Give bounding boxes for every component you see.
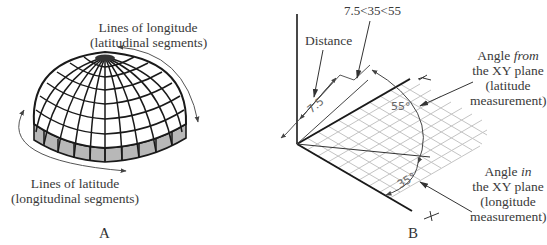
diagram-canvas xyxy=(0,0,547,245)
panel-a-letter: A xyxy=(99,225,110,242)
x-axis-glyph xyxy=(424,211,439,221)
angle-from-label: Angle from the XY plane (latitude measur… xyxy=(470,48,546,108)
angle-from-leader xyxy=(420,82,473,106)
longitude-label: Lines of longitude (latitudinal segments… xyxy=(90,20,206,50)
coordinate-leader xyxy=(357,21,370,78)
distance-label: Distance xyxy=(305,33,352,48)
xy-grid-plane xyxy=(297,78,487,198)
dome-mesh xyxy=(34,52,186,162)
angle-in-label: Angle in the XY plane (longitude measure… xyxy=(470,164,546,224)
angle-in-leader xyxy=(420,182,472,212)
point-vector xyxy=(297,80,368,144)
y-axis-glyph xyxy=(418,75,431,80)
coordinate-entry-label: 7.5<35<55 xyxy=(344,3,401,18)
distance-leader xyxy=(314,50,323,97)
angle-from-value: 55° xyxy=(391,100,411,113)
latitude-label: Lines of latitude (longitudinal segments… xyxy=(10,176,140,206)
panel-b-letter: B xyxy=(408,225,418,242)
